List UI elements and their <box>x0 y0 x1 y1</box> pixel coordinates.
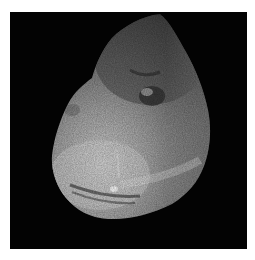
comet-nucleus-image <box>0 0 255 260</box>
nucleus-body <box>40 10 220 225</box>
